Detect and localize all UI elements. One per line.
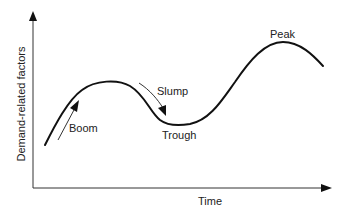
- boom-arrow: [58, 100, 79, 140]
- x-axis-label: Time: [198, 195, 222, 207]
- slump-arrow-head-icon: [158, 105, 166, 116]
- x-axis: [33, 184, 332, 192]
- peak-label: Peak: [270, 28, 296, 40]
- slump-label: Slump: [157, 85, 188, 97]
- business-cycle-diagram: Boom Slump Trough Peak Time Demand-relat…: [0, 0, 351, 214]
- boom-label: Boom: [69, 122, 98, 134]
- y-axis: [29, 11, 37, 188]
- y-axis-arrow-icon: [29, 11, 37, 21]
- y-axis-label: Demand-related factors: [15, 46, 27, 161]
- trough-label: Trough: [162, 129, 196, 141]
- x-axis-arrow-icon: [321, 184, 332, 192]
